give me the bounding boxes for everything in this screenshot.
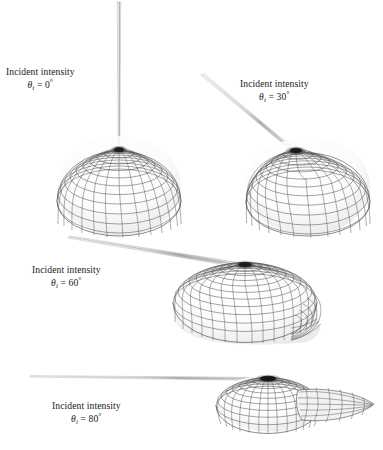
incident-label-60: Incident intensity θi = 60°: [32, 264, 101, 291]
incident-label-30-line1: Incident intensity: [240, 78, 309, 89]
incident-label-60-line1: Incident intensity: [32, 264, 101, 275]
scattering-lobe-30: [246, 137, 370, 238]
lobe-panel-0: [57, 2, 181, 238]
theta-subscript: i: [56, 282, 58, 290]
degree-symbol: °: [98, 412, 101, 421]
angle-value: 60: [68, 277, 78, 288]
scattering-lobe-80: [216, 374, 374, 434]
incident-label-80-line1: Incident intensity: [52, 400, 121, 411]
theta-subscript: i: [264, 96, 266, 104]
lobe-panel-60: [68, 236, 321, 345]
incident-label-80-angle: θi = 80°: [52, 412, 121, 427]
degree-symbol: °: [286, 90, 289, 99]
degree-symbol: °: [50, 78, 53, 87]
angle-value: 80: [88, 413, 98, 424]
degree-symbol: °: [78, 276, 81, 285]
equals-sign: =: [37, 79, 43, 90]
incident-label-0-angle: θi = 0°: [6, 78, 75, 93]
incident-spike-0: [117, 2, 120, 150]
incident-label-30: Incident intensity θi = 30°: [240, 78, 309, 105]
theta-subscript: i: [76, 418, 78, 426]
equals-sign: =: [80, 413, 86, 424]
theta-subscript: i: [32, 84, 34, 92]
incident-label-0-line1: Incident intensity: [6, 66, 75, 77]
incident-label-60-angle: θi = 60°: [32, 276, 101, 291]
equals-sign: =: [268, 91, 274, 102]
scattering-lobe-60: [173, 260, 321, 345]
incident-label-0: Incident intensity θi = 0°: [6, 66, 75, 93]
incident-label-30-angle: θi = 30°: [240, 90, 309, 105]
incident-spike-80: [30, 376, 272, 381]
incident-label-80: Incident intensity θi = 80°: [52, 400, 121, 427]
scattering-lobe-0: [57, 136, 181, 238]
equals-sign: =: [60, 277, 66, 288]
angle-value: 30: [276, 91, 286, 102]
